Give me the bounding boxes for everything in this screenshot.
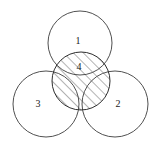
venn-diagram-figure: 1 4 3 2 [0,0,156,151]
circle-2-label: 2 [116,98,121,109]
circle-3-label: 3 [36,98,41,109]
venn-diagram-canvas: 1 4 3 2 [0,0,156,151]
circle-4-label: 4 [77,61,82,72]
circle-1-label: 1 [76,35,81,46]
